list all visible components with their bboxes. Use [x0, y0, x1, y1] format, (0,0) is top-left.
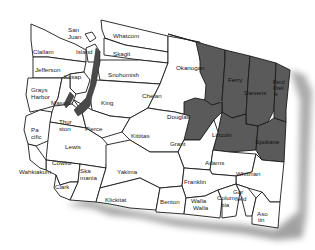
- label-pierce: Pierce: [85, 125, 103, 132]
- label-lewis: Lewis: [65, 143, 81, 150]
- label-grays-harbor-2: Harbor: [31, 93, 50, 100]
- label-klickitat: Klickitat: [105, 196, 127, 203]
- label-thurston-2: ston: [59, 125, 71, 132]
- label-franklin: Franklin: [184, 178, 207, 185]
- label-ferry: Ferry: [228, 76, 243, 83]
- label-okanogan: Okanogan: [176, 64, 205, 71]
- label-chelan: Chelan: [142, 92, 162, 99]
- label-garfield: Gar: [233, 188, 243, 195]
- label-san-juan: San: [68, 26, 80, 33]
- label-thurston: Thur: [59, 118, 72, 125]
- label-clallam: Clallam: [33, 48, 54, 55]
- label-columbia-2: bia: [221, 201, 230, 208]
- label-yakima: Yakima: [117, 168, 138, 175]
- washington-county-map: San Juan Whatcom Clallam Island Skagit O…: [0, 0, 315, 250]
- label-columbia: Colum: [217, 194, 235, 201]
- label-whatcom: Whatcom: [113, 32, 139, 39]
- label-walla-walla-2: Walla: [193, 204, 209, 211]
- label-asotin-2: tin: [258, 216, 265, 223]
- label-snohomish: Snohomish: [108, 71, 140, 78]
- label-island: Island: [76, 48, 93, 55]
- label-mason: Mason: [51, 99, 70, 106]
- county-wahkiakum[interactable]: [28, 144, 46, 170]
- label-grays-harbor: Grays: [31, 86, 48, 93]
- label-skamania-2: mania: [80, 174, 97, 181]
- label-pacific-2: cific: [31, 133, 42, 140]
- label-jefferson: Jefferson: [35, 66, 61, 73]
- label-pend-oreille-3: le: [274, 91, 278, 97]
- label-adams: Adams: [205, 159, 224, 166]
- label-cowlitz: Cowlitz: [52, 159, 72, 166]
- label-whitman: Whitman: [236, 170, 261, 177]
- label-pacific: Pa: [31, 126, 39, 133]
- label-clark: Clark: [55, 183, 70, 190]
- label-spokane: Spokane: [255, 138, 280, 145]
- label-lincoln: Lincoln: [212, 131, 232, 138]
- label-skamania: Ska: [80, 167, 91, 174]
- label-stevens: Stevens: [244, 89, 266, 96]
- label-kitsap: Kitsap: [64, 73, 82, 80]
- label-garfield-2: field: [235, 195, 247, 202]
- label-benton: Benton: [160, 198, 180, 205]
- label-king: King: [101, 99, 114, 106]
- label-douglas: Douglas: [167, 113, 190, 120]
- label-wahkiakum: Wahkiakum: [19, 168, 51, 175]
- county-ferry[interactable]: [222, 50, 250, 118]
- county-san-juan[interactable]: [85, 32, 96, 42]
- label-walla-walla: Walla: [191, 197, 207, 204]
- label-kittitas: Kittitas: [131, 132, 150, 139]
- label-grant: Grant: [170, 140, 186, 147]
- label-san-juan-2: Juan: [68, 33, 82, 40]
- label-skagit: Skagit: [113, 50, 130, 57]
